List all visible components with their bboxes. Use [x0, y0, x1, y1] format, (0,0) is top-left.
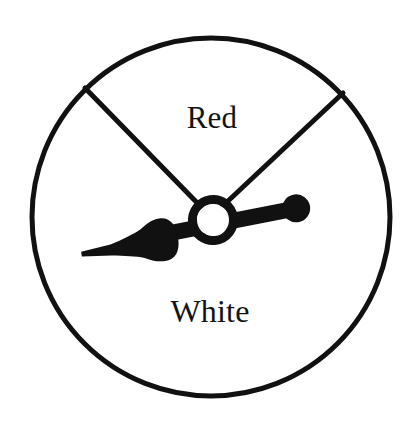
spinner-diagram: Red White [0, 0, 420, 427]
spinner-canvas [0, 0, 420, 427]
sector-label-red: Red [187, 100, 238, 136]
sector-label-white: White [170, 293, 249, 330]
